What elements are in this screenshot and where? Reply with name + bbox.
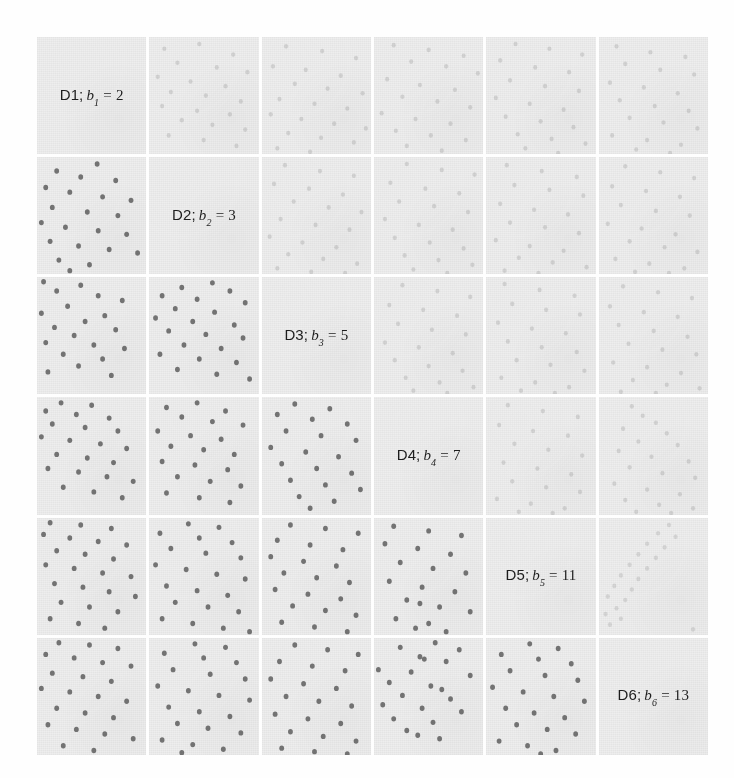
data-point <box>564 331 568 336</box>
data-point <box>653 391 657 395</box>
data-point <box>634 147 638 152</box>
panel-d3-vs-d5[interactable] <box>486 277 595 394</box>
panel-d4-vs-d2[interactable] <box>149 397 258 514</box>
panel-diagonal-d6[interactable]: D6; b6 = 13 <box>599 638 708 755</box>
panel-d3-vs-d6[interactable] <box>599 277 708 394</box>
data-point <box>500 376 504 381</box>
data-point <box>87 262 92 267</box>
data-point <box>268 445 273 450</box>
panel-d4-vs-d5[interactable] <box>486 397 595 514</box>
data-point <box>392 43 396 48</box>
data-point <box>504 705 509 710</box>
panel-d3-vs-d4[interactable] <box>374 277 483 394</box>
data-point <box>248 377 253 382</box>
scatter-points <box>599 37 708 154</box>
data-point <box>649 455 653 460</box>
data-point <box>574 731 579 736</box>
panel-d2-vs-d4[interactable] <box>374 157 483 274</box>
panel-d5-vs-d4[interactable] <box>374 518 483 635</box>
scatter-points <box>37 638 146 755</box>
panel-d5-vs-d2[interactable] <box>149 518 258 635</box>
data-point <box>532 208 536 213</box>
data-point <box>167 133 171 138</box>
scatter-points <box>262 37 371 154</box>
panel-d6-vs-d1[interactable] <box>37 638 146 755</box>
data-point <box>43 185 48 190</box>
data-point <box>651 329 655 334</box>
data-point <box>234 360 239 365</box>
data-point <box>686 460 690 465</box>
data-point <box>517 510 521 515</box>
data-point <box>353 612 358 617</box>
panel-d2-vs-d1[interactable] <box>37 157 146 274</box>
panel-d1-vs-d6[interactable] <box>599 37 708 154</box>
panel-diagonal-d3[interactable]: D3; b3 = 5 <box>262 277 371 394</box>
data-point <box>334 685 339 690</box>
panel-d2-vs-d6[interactable] <box>599 157 708 274</box>
data-point <box>578 312 582 317</box>
data-point <box>100 570 105 575</box>
panel-diagonal-d5[interactable]: D5; b5 = 11 <box>486 518 595 635</box>
data-point <box>63 225 68 230</box>
data-point <box>462 246 466 251</box>
panel-d1-vs-d5[interactable] <box>486 37 595 154</box>
panel-d4-vs-d3[interactable] <box>262 397 371 514</box>
panel-d6-vs-d2[interactable] <box>149 638 258 755</box>
data-point <box>336 455 341 460</box>
panel-d6-vs-d5[interactable] <box>486 638 595 755</box>
data-point <box>271 64 275 69</box>
panel-d4-vs-d1[interactable] <box>37 397 146 514</box>
panel-d1-vs-d4[interactable] <box>374 37 483 154</box>
data-point <box>679 371 683 376</box>
panel-d5-vs-d3[interactable] <box>262 518 371 635</box>
scatter-points <box>37 277 146 394</box>
data-point <box>115 609 120 614</box>
data-point <box>432 204 436 209</box>
data-point <box>239 730 244 735</box>
data-point <box>675 443 679 448</box>
data-point <box>466 210 470 215</box>
data-point <box>529 502 533 507</box>
data-point <box>100 357 105 362</box>
panel-d2-vs-d5[interactable] <box>486 157 595 274</box>
data-point <box>464 332 468 337</box>
data-point <box>180 285 185 290</box>
data-point <box>400 693 405 698</box>
data-point <box>175 721 180 726</box>
data-point <box>471 385 475 390</box>
data-point <box>67 268 72 273</box>
data-point <box>292 642 297 647</box>
data-point <box>538 288 542 293</box>
data-point <box>612 583 616 588</box>
data-point <box>279 462 284 467</box>
panel-d4-vs-d6[interactable] <box>599 397 708 514</box>
data-point <box>494 238 498 243</box>
panel-d2-vs-d3[interactable] <box>262 157 371 274</box>
data-point <box>673 232 677 237</box>
scatter-points <box>374 37 483 154</box>
data-point <box>693 476 697 481</box>
data-point <box>544 485 548 490</box>
variable-name: D6; <box>618 686 645 703</box>
data-point <box>503 268 507 273</box>
panel-diagonal-d2[interactable]: D2; b2 = 3 <box>149 157 258 274</box>
panel-d6-vs-d3[interactable] <box>262 638 371 755</box>
data-point <box>197 709 202 714</box>
data-point <box>668 151 672 155</box>
data-point <box>613 257 617 262</box>
panel-d3-vs-d2[interactable] <box>149 277 258 394</box>
panel-diagonal-d4[interactable]: D4; b4 = 7 <box>374 397 483 514</box>
data-point <box>272 586 277 591</box>
data-point <box>577 89 581 94</box>
data-point <box>215 65 219 70</box>
panel-d5-vs-d6[interactable] <box>599 518 708 635</box>
panel-d3-vs-d1[interactable] <box>37 277 146 394</box>
panel-d6-vs-d4[interactable] <box>374 638 483 755</box>
panel-d1-vs-d2[interactable] <box>149 37 258 154</box>
data-point <box>353 438 358 443</box>
data-point <box>219 437 224 442</box>
panel-d5-vs-d1[interactable] <box>37 518 146 635</box>
panel-diagonal-d1[interactable]: D1; b1 = 2 <box>37 37 146 154</box>
data-point <box>573 294 577 299</box>
panel-d1-vs-d3[interactable] <box>262 37 371 154</box>
